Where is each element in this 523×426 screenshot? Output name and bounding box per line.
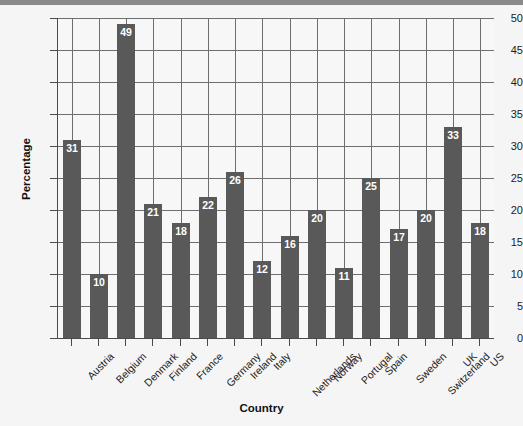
- bar[interactable]: 26: [226, 172, 244, 338]
- x-tick-mark: [316, 339, 317, 346]
- top-band: [0, 0, 523, 5]
- x-tick-mark: [452, 339, 453, 346]
- bar-value-label: 22: [199, 199, 217, 211]
- bar[interactable]: 18: [471, 223, 489, 338]
- bar-value-label: 31: [63, 142, 81, 154]
- y-tick-mark: [50, 18, 57, 19]
- x-tick-mark: [180, 339, 181, 346]
- bar-value-label: 26: [226, 174, 244, 186]
- x-tick-mark: [207, 339, 208, 346]
- x-tick-label: France: [194, 350, 226, 382]
- x-tick-label: US: [487, 350, 506, 369]
- y-tick-mark: [50, 242, 57, 243]
- x-tick-mark: [152, 339, 153, 346]
- bar[interactable]: 10: [90, 274, 108, 338]
- bar[interactable]: 22: [199, 197, 217, 338]
- bar[interactable]: 20: [417, 210, 435, 338]
- x-axis-title: Country: [0, 402, 523, 414]
- x-tick-mark: [261, 339, 262, 346]
- bar-value-label: 16: [281, 238, 299, 250]
- y-tick-mark: [50, 50, 57, 51]
- bar-value-label: 20: [308, 212, 326, 224]
- bar-value-label: 18: [172, 225, 190, 237]
- chart-page: Percentage 05101520253035404550 31104921…: [0, 0, 523, 426]
- x-tick-mark: [289, 339, 290, 346]
- bar[interactable]: 17: [390, 229, 408, 338]
- x-tick-mark: [71, 339, 72, 346]
- y-tick-mark: [50, 82, 57, 83]
- bar-value-label: 49: [117, 26, 135, 38]
- bar-value-label: 12: [253, 263, 271, 275]
- bar[interactable]: 11: [335, 268, 353, 338]
- bar[interactable]: 31: [63, 140, 81, 338]
- plot-area: 31104921182226121620112517203318: [57, 18, 494, 339]
- x-tick-mark: [125, 339, 126, 346]
- y-tick-mark: [50, 274, 57, 275]
- x-tick-label: Austria: [85, 350, 117, 382]
- y-tick-mark: [50, 146, 57, 147]
- bar-value-label: 10: [90, 276, 108, 288]
- bar[interactable]: 21: [144, 204, 162, 338]
- bar-value-label: 20: [417, 212, 435, 224]
- x-tick-mark: [234, 339, 235, 346]
- x-tick-mark: [343, 339, 344, 346]
- bar[interactable]: 18: [172, 223, 190, 338]
- bar[interactable]: 49: [117, 24, 135, 338]
- gridline-horizontal: [58, 18, 494, 19]
- bar[interactable]: 12: [253, 261, 271, 338]
- bar-value-label: 25: [362, 180, 380, 192]
- y-tick-mark: [50, 338, 57, 339]
- x-tick-mark: [98, 339, 99, 346]
- bar[interactable]: 16: [281, 236, 299, 338]
- y-tick-mark: [50, 210, 57, 211]
- y-axis-title: Percentage: [20, 109, 32, 229]
- x-tick-mark: [479, 339, 480, 346]
- y-tick-mark: [50, 114, 57, 115]
- bar-value-label: 21: [144, 206, 162, 218]
- y-tick-mark: [50, 178, 57, 179]
- bar[interactable]: 33: [444, 127, 462, 338]
- bar-value-label: 11: [335, 270, 353, 282]
- x-tick-mark: [425, 339, 426, 346]
- bar-value-label: 17: [390, 231, 408, 243]
- bar[interactable]: 20: [308, 210, 326, 338]
- x-tick-mark: [398, 339, 399, 346]
- bar-value-label: 18: [471, 225, 489, 237]
- x-tick-label: Sweden: [413, 350, 448, 385]
- y-tick-mark: [50, 306, 57, 307]
- x-tick-mark: [370, 339, 371, 346]
- bar-value-label: 33: [444, 129, 462, 141]
- bar[interactable]: 25: [362, 178, 380, 338]
